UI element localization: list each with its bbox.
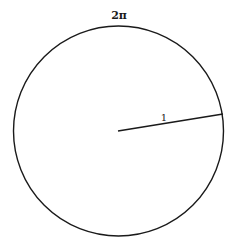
circumference-label: 2π bbox=[111, 9, 127, 22]
radius-label: 1 bbox=[161, 112, 167, 123]
unit-circle-diagram: 2π 1 bbox=[0, 0, 238, 250]
radius-line bbox=[118, 114, 223, 131]
